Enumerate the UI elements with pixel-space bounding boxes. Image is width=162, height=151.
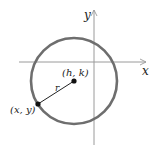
point-label: (x, y): [10, 104, 36, 115]
circle-diagram: y x (h, k) r (x, y): [0, 0, 162, 151]
center-point: [71, 78, 76, 83]
circle-point: [35, 101, 40, 106]
center-label: (h, k): [62, 67, 89, 78]
y-axis-label: y: [83, 8, 91, 22]
x-axis-label: x: [142, 64, 149, 78]
radius-label: r: [55, 83, 60, 93]
